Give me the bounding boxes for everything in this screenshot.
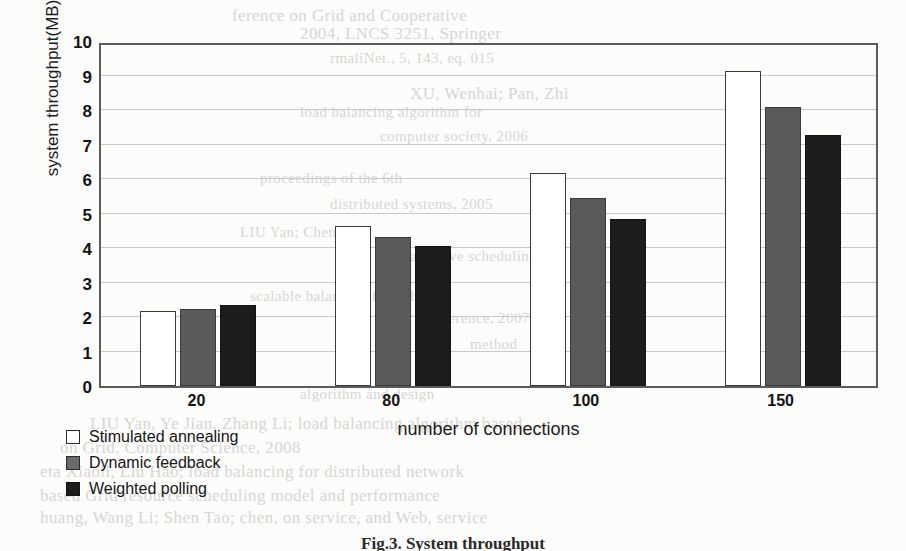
- bar: [805, 135, 841, 386]
- figure-caption: Fig.3. System throughput: [0, 534, 906, 551]
- y-axis-tick-labels: 012345678910: [50, 43, 92, 388]
- y-axis-tick-label: 2: [50, 309, 92, 329]
- chart-legend: Stimulated annealingDynamic feedbackWeig…: [66, 424, 366, 502]
- legend-item: Stimulated annealing: [66, 424, 366, 450]
- x-axis-tick-labels: 2080100150: [99, 392, 878, 418]
- legend-item: Weighted polling: [66, 476, 366, 502]
- y-axis-tick-label: 5: [50, 206, 92, 226]
- bar: [725, 71, 761, 386]
- x-axis-tick-label: 100: [573, 392, 600, 410]
- y-axis-tick-label: 10: [50, 33, 92, 53]
- bar: [220, 305, 256, 386]
- bar: [610, 219, 646, 386]
- y-axis-tick-label: 7: [50, 137, 92, 157]
- legend-item-label: Stimulated annealing: [89, 428, 238, 446]
- plot-area: [99, 43, 878, 388]
- bar: [375, 237, 411, 386]
- legend-item-label: Weighted polling: [89, 480, 207, 498]
- y-axis-tick-label: 9: [50, 68, 92, 88]
- bar: [140, 311, 176, 386]
- bar: [570, 198, 606, 386]
- bar: [530, 173, 566, 386]
- bar: [180, 309, 216, 386]
- y-axis-tick-label: 8: [50, 102, 92, 122]
- legend-item: Dynamic feedback: [66, 450, 366, 476]
- x-axis-tick-label: 150: [767, 392, 794, 410]
- gray-square-icon: [66, 456, 80, 470]
- black-square-icon: [66, 482, 80, 496]
- x-axis-tick-label: 80: [382, 392, 400, 410]
- bar-chart: system throughput(MB) 012345678910 20801…: [0, 0, 906, 551]
- y-axis-tick-label: 4: [50, 240, 92, 260]
- legend-item-label: Dynamic feedback: [89, 454, 221, 472]
- y-axis-tick-label: 3: [50, 275, 92, 295]
- y-axis-tick-label: 6: [50, 171, 92, 191]
- y-axis-tick-label: 1: [50, 344, 92, 364]
- bar: [335, 226, 371, 386]
- bar: [765, 107, 801, 386]
- white-square-icon: [66, 430, 80, 444]
- y-axis-tick-label: 0: [50, 378, 92, 398]
- bar: [415, 246, 451, 386]
- x-axis-tick-label: 20: [187, 392, 205, 410]
- scanned-page: ference on Grid and Cooperative2004, LNC…: [0, 0, 906, 551]
